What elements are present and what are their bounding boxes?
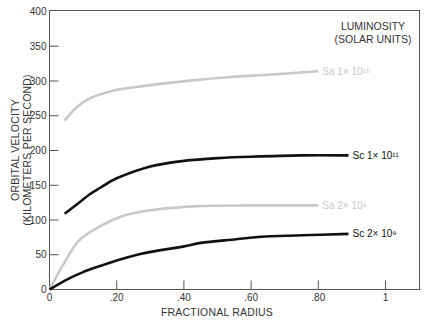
series-sa-2e9-label: Sa 2× 10⁹ [322,200,367,211]
series-sc-1e11-label: Sc 1× 10¹¹ [353,150,400,161]
x-tick-label: .60 [244,292,258,303]
x-tick-label: 1 [383,292,389,303]
y-axis-title-line1: ORBITAL VELOCITY [9,99,21,201]
x-tick-label: .40 [177,292,191,303]
x-axis-title: FRACTIONAL RADIUS [161,306,273,318]
series-labels: Sa 1× 10¹¹Sc 1× 10¹¹Sa 2× 10⁹Sc 2× 10⁹ [322,66,399,240]
series-sa-1e11-line [65,71,319,120]
y-axis-ticks: 050100150200250300350400 [30,6,59,295]
series-sc-2e9-line [50,234,349,290]
y-tick-label: 400 [30,6,47,17]
series-lines [50,71,349,289]
orbital-velocity-chart: 050100150200250300350400 0.20.40.60.801 … [0,0,427,323]
x-tick-label: .20 [110,292,124,303]
x-tick-label: .80 [311,292,325,303]
legend-title-line1: LUMINOSITY [341,20,405,32]
y-axis-title: ORBITAL VELOCITY (KILOMETERS PER SECOND) [9,74,33,226]
x-axis-ticks: 0.20.40.60.801 [47,281,389,303]
series-sa-1e11-label: Sa 1× 10¹¹ [322,66,370,77]
y-axis-title-line2: (KILOMETERS PER SECOND) [21,74,33,226]
series-sc-2e9-label: Sc 2× 10⁹ [353,228,397,239]
y-tick-label: 50 [35,249,47,260]
y-tick-label: 350 [30,41,47,52]
legend-title-line2: (SOLAR UNITS) [334,33,411,45]
x-tick-label: 0 [47,292,53,303]
